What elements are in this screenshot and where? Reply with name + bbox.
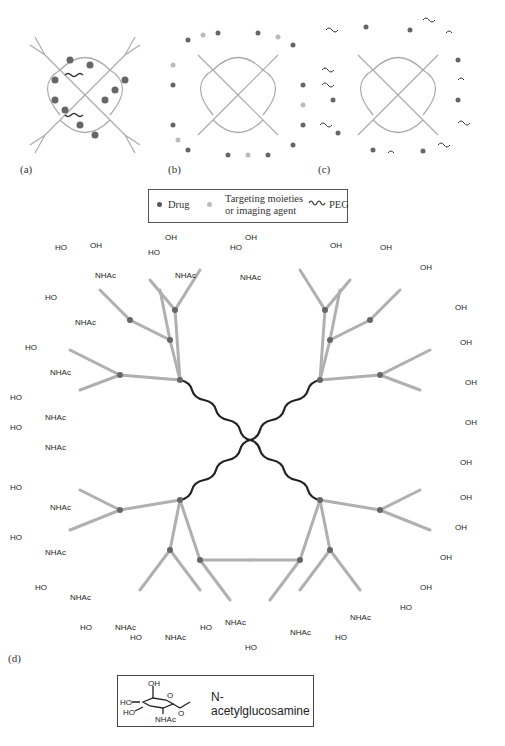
legend-targeting-line2: or imaging agent <box>225 205 296 216</box>
svg-text:OH: OH <box>330 241 342 250</box>
oh-label: OH <box>148 679 160 688</box>
ho-label-1: HO <box>120 698 132 707</box>
svg-text:HO: HO <box>130 633 142 642</box>
svg-text:NHAc: NHAc <box>115 623 136 632</box>
svg-text:NHAc: NHAc <box>165 633 186 642</box>
svg-text:OH: OH <box>465 378 477 387</box>
panel-d: HOOHNHAc HOOHNHAc HOOHNHAc HONHAc HONHAc… <box>0 230 505 655</box>
svg-text:HO: HO <box>10 393 22 402</box>
svg-text:OH: OH <box>460 458 472 467</box>
svg-text:HO: HO <box>55 243 67 252</box>
svg-text:OH: OH <box>420 263 432 272</box>
svg-text:OH: OH <box>165 233 177 242</box>
svg-text:NHAc: NHAc <box>240 273 261 282</box>
svg-text:OH: OH <box>455 523 467 532</box>
nag-inset: OH HO HO O NHAc O N-acetylglucosamine <box>117 675 314 727</box>
svg-text:HO: HO <box>230 243 242 252</box>
nag-structure-icon: OH HO HO O NHAc O <box>118 676 203 726</box>
legend-targeting-line1: Targeting moieties <box>225 193 303 204</box>
panel-c-label: (c) <box>318 163 330 175</box>
svg-text:HO: HO <box>80 623 92 632</box>
svg-text:HO: HO <box>400 603 412 612</box>
panel-d-label: (d) <box>8 652 21 664</box>
svg-text:HO: HO <box>10 483 22 492</box>
svg-text:NHAc: NHAc <box>75 318 96 327</box>
svg-text:OH: OH <box>380 243 392 252</box>
svg-text:NHAc: NHAc <box>350 613 371 622</box>
panel-b-label: (b) <box>168 163 181 175</box>
nhac-label: NHAc <box>155 715 176 724</box>
panel-b: (b) <box>168 25 308 160</box>
svg-text:OH: OH <box>455 303 467 312</box>
svg-text:HO: HO <box>10 423 22 432</box>
svg-text:NHAc: NHAc <box>45 413 66 422</box>
nag-name-label: N-acetylglucosamine <box>211 690 313 718</box>
panel-c: (c) <box>318 15 478 160</box>
svg-text:OH: OH <box>465 418 477 427</box>
svg-text:NHAc: NHAc <box>45 548 66 557</box>
drug-dot-icon <box>157 202 162 207</box>
svg-text:OH: OH <box>440 553 452 562</box>
svg-text:OH: OH <box>90 241 102 250</box>
svg-text:NHAc: NHAc <box>45 443 66 452</box>
svg-text:HO: HO <box>200 623 212 632</box>
svg-text:NHAc: NHAc <box>175 271 196 280</box>
dendrimer-a-diagram <box>15 25 155 160</box>
svg-text:HO: HO <box>45 293 57 302</box>
svg-text:OH: OH <box>460 338 472 347</box>
svg-text:OH: OH <box>420 583 432 592</box>
ring-oxygen-label: O <box>167 691 173 700</box>
svg-text:OH: OH <box>460 493 472 502</box>
legend: Drug Targeting moieties or imaging agent… <box>148 189 348 223</box>
legend-drug-label: Drug <box>168 199 190 210</box>
panel-a-label: (a) <box>20 163 32 175</box>
panel-a: (a) <box>15 25 155 160</box>
dendrimer-c-diagram <box>318 15 478 160</box>
svg-text:HO: HO <box>335 633 347 642</box>
svg-text:NHAc: NHAc <box>95 271 116 280</box>
svg-text:HO: HO <box>35 583 47 592</box>
svg-text:NHAc: NHAc <box>50 368 71 377</box>
svg-text:NHAc: NHAc <box>50 503 71 512</box>
legend-peg-label: PEG <box>329 199 349 210</box>
link-oxygen-label: O <box>178 709 184 718</box>
svg-text:HO: HO <box>10 533 22 542</box>
svg-text:OH: OH <box>245 233 257 242</box>
dendrimer-b-diagram <box>168 25 308 160</box>
svg-text:NHAc: NHAc <box>290 628 311 637</box>
peg-coil-icon <box>309 199 325 207</box>
svg-text:HO: HO <box>245 643 257 652</box>
ho-label-2: HO <box>123 708 135 717</box>
svg-text:NHAc: NHAc <box>225 618 246 627</box>
svg-text:NHAc: NHAc <box>70 593 91 602</box>
targeting-dot-icon <box>207 202 212 207</box>
svg-text:HO: HO <box>25 343 37 352</box>
svg-text:HO: HO <box>148 248 160 257</box>
dendrimer-d-diagram: HOOHNHAc HOOHNHAc HOOHNHAc HONHAc HONHAc… <box>0 230 505 655</box>
